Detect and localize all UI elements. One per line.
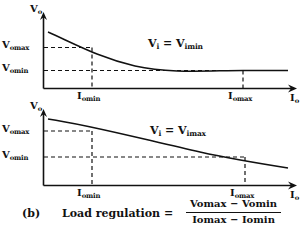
fraction-numerator: Vomax − Vomin — [186, 198, 281, 212]
top-chart-axes — [40, 12, 297, 93]
bottom-chart-y-axis-label: Vo — [30, 101, 42, 111]
top-chart-xtick-iomax: Iomax — [228, 91, 252, 101]
top-chart-ytick-vomin: Vomin — [2, 63, 28, 73]
top-chart-ytick-vomax: Vomax — [2, 40, 29, 50]
bottom-chart-xtick-iomin: Iomin — [77, 188, 100, 198]
bottom-chart-ytick-vomax: Vomax — [2, 124, 29, 134]
bottom-chart-xtick-iomax: Iomax — [230, 188, 254, 198]
bottom-chart-ytick-vomin: Vomin — [2, 150, 28, 160]
top-chart-xtick-iomin: Iomin — [77, 91, 100, 101]
load-regulation-figure: Vo Vomax Vomin Iomin Iomax Io Vi = Vimin… — [0, 0, 308, 238]
load-regulation-fraction: Vomax − Vomin Iomax − Iomin — [186, 198, 281, 226]
top-chart-x-axis-label: Io — [290, 93, 299, 103]
top-chart-y-axis-label: Vo — [30, 4, 42, 14]
fraction-denominator: Iomax − Iomin — [186, 213, 281, 227]
bottom-chart-axes — [40, 109, 297, 190]
bottom-chart-x-axis-label: Io — [290, 190, 299, 200]
panel-label: (b) — [22, 208, 40, 219]
formula-label: Load regulation = — [62, 208, 173, 219]
top-chart-curve-annotation: Vi = Vimin — [148, 38, 203, 49]
bottom-chart-curve-annotation: Vi = Vimax — [150, 125, 206, 136]
